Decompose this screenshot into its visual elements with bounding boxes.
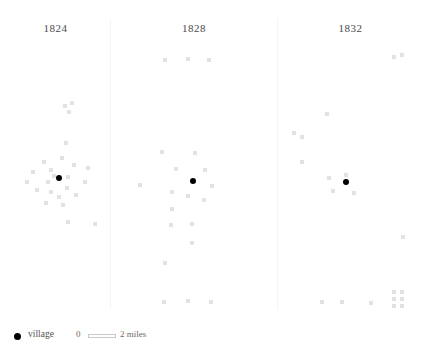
- house-point: [401, 235, 405, 239]
- village-point: [343, 179, 349, 185]
- house-point: [160, 150, 164, 154]
- house-point: [400, 297, 404, 301]
- house-point: [203, 168, 207, 172]
- house-point: [190, 241, 194, 245]
- scale-bar-min-label: 0: [76, 329, 81, 339]
- house-point: [66, 220, 70, 224]
- village-point: [56, 175, 62, 181]
- house-point: [169, 223, 173, 227]
- house-point: [86, 166, 90, 170]
- house-point: [44, 201, 48, 205]
- house-point: [392, 290, 396, 294]
- village-legend-label: village: [28, 329, 54, 339]
- house-point: [207, 58, 211, 62]
- panel-1828: 1828: [111, 0, 277, 320]
- house-point: [57, 195, 61, 199]
- house-point: [392, 304, 396, 308]
- house-point: [170, 190, 174, 194]
- house-point: [49, 190, 53, 194]
- house-point: [400, 290, 404, 294]
- house-point: [93, 222, 97, 226]
- house-point: [170, 207, 174, 211]
- house-point: [186, 57, 190, 61]
- house-point: [60, 156, 64, 160]
- house-point: [67, 110, 71, 114]
- house-point: [31, 170, 35, 174]
- house-point: [369, 301, 373, 305]
- house-point: [66, 175, 70, 179]
- figure-legend: village 0 2 miles: [0, 326, 424, 351]
- house-point: [72, 163, 76, 167]
- panel-title-1832: 1832: [277, 22, 424, 34]
- house-point: [74, 193, 78, 197]
- scale-bar: [88, 334, 116, 338]
- house-point: [174, 167, 178, 171]
- house-point: [163, 58, 167, 62]
- house-point: [331, 189, 335, 193]
- house-point: [162, 300, 166, 304]
- house-point: [210, 184, 214, 188]
- scale-bar-max-label: 2 miles: [120, 329, 146, 339]
- house-point: [392, 297, 396, 301]
- house-point: [292, 131, 296, 135]
- house-point: [46, 180, 50, 184]
- house-point: [340, 300, 344, 304]
- house-point: [325, 112, 329, 116]
- house-point: [186, 194, 190, 198]
- house-point: [400, 304, 404, 308]
- house-point: [327, 176, 331, 180]
- panel-title-1824: 1824: [0, 22, 111, 34]
- house-point: [163, 261, 167, 265]
- village-point: [190, 178, 196, 184]
- house-point: [209, 300, 213, 304]
- panel-1824: 1824: [0, 0, 111, 320]
- house-point: [35, 188, 39, 192]
- house-point: [25, 180, 29, 184]
- house-point: [300, 135, 304, 139]
- house-point: [202, 198, 206, 202]
- scatter-map-figure: 182418281832: [0, 0, 424, 351]
- house-point: [320, 300, 324, 304]
- panel-title-1828: 1828: [111, 22, 277, 34]
- house-point: [65, 186, 69, 190]
- house-point: [392, 55, 396, 59]
- house-point: [61, 203, 65, 207]
- house-point: [193, 151, 197, 155]
- house-point: [344, 173, 348, 177]
- house-point: [400, 53, 404, 57]
- house-point: [352, 191, 356, 195]
- house-point: [49, 168, 53, 172]
- house-point: [42, 160, 46, 164]
- house-point: [186, 299, 190, 303]
- house-point: [64, 141, 68, 145]
- house-point: [300, 160, 304, 164]
- house-point: [70, 101, 74, 105]
- house-point: [138, 183, 142, 187]
- house-point: [190, 222, 194, 226]
- house-point: [83, 180, 87, 184]
- village-legend-dot-icon: [14, 333, 21, 340]
- house-point: [63, 104, 67, 108]
